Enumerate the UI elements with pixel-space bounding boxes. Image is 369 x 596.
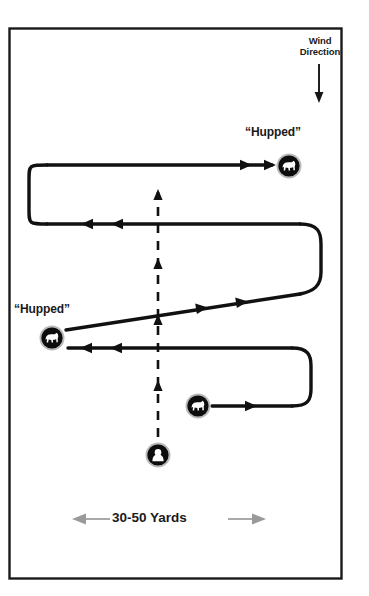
dog-icon xyxy=(40,326,65,351)
diagram-svg xyxy=(0,0,369,596)
hupped-label-top: “Hupped” xyxy=(245,126,301,139)
diagram-canvas: Wind Direction “Hupped” “Hupped” 30-50 Y… xyxy=(0,0,369,596)
dog-icon xyxy=(186,394,211,419)
wind-direction-label: Wind Direction xyxy=(292,36,348,57)
distance-label: 30-50 Yards xyxy=(112,510,187,525)
dog-icon xyxy=(277,154,302,179)
wind-direction-line2: Direction xyxy=(292,47,348,58)
hunter-icon xyxy=(146,443,171,468)
hupped-label-left: “Hupped” xyxy=(14,303,70,316)
